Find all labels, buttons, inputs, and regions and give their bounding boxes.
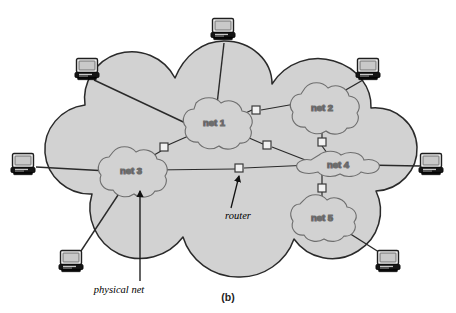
router-icon[interactable]	[318, 184, 326, 192]
router-icon[interactable]	[235, 164, 243, 172]
physical-net-annotation-label: physical net	[93, 284, 146, 295]
host-computer-icon[interactable]	[11, 154, 35, 175]
network-diagram: net 1 net 2 net 3 net 4 net 5	[0, 0, 456, 313]
host-computer-icon[interactable]	[356, 59, 380, 80]
figure-caption: (b)	[221, 291, 234, 303]
internet-topology-figure: net 1 net 2 net 3 net 4 net 5	[0, 0, 456, 313]
network-net3-label: net 3	[120, 165, 142, 176]
router-icon[interactable]	[252, 106, 260, 114]
host-computer-icon[interactable]	[376, 251, 400, 272]
network-net1-label: net 1	[203, 117, 226, 128]
host-computer-icon[interactable]	[75, 59, 99, 80]
router-icon[interactable]	[318, 138, 326, 146]
host-computer-icon[interactable]	[211, 19, 235, 40]
router-icon[interactable]	[160, 143, 168, 151]
router-icon[interactable]	[263, 141, 271, 149]
network-net4-label: net 4	[327, 159, 350, 170]
network-net5-label: net 5	[311, 212, 334, 223]
host-computer-icon[interactable]	[419, 154, 443, 175]
router-annotation-label: router	[225, 210, 252, 221]
host-computer-icon[interactable]	[59, 251, 83, 272]
network-net2-label: net 2	[311, 102, 333, 113]
